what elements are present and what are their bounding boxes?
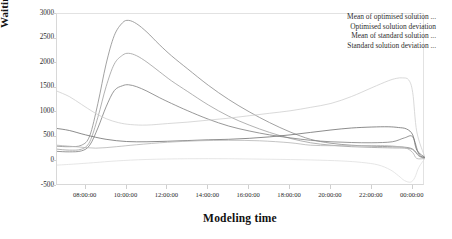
y-tick-label: 1000 xyxy=(22,107,54,115)
y-tick-label: 1500 xyxy=(22,82,54,90)
chart-container: Waiting time(s) 300025002000150010005000… xyxy=(0,0,452,239)
x-tick-label: 22:00:00 xyxy=(359,191,382,198)
y-tick-label: -500 xyxy=(22,181,54,189)
y-tick-mark xyxy=(52,160,56,161)
y-axis-title: Waiting time(s) xyxy=(0,0,10,46)
x-tick-label: 10:00:00 xyxy=(114,191,137,198)
x-tick-label: 12:00:00 xyxy=(155,191,178,198)
x-tick-mark xyxy=(371,185,372,189)
y-tick-mark xyxy=(52,38,56,39)
x-tick-mark xyxy=(166,185,167,189)
x-tick-mark xyxy=(126,185,127,189)
x-tick-mark xyxy=(289,185,290,189)
y-tick-label: 500 xyxy=(22,131,54,139)
legend-item: Optimised solution deviation xyxy=(347,22,436,32)
y-tick-label: 2000 xyxy=(22,58,54,66)
x-tick-mark xyxy=(248,185,249,189)
x-tick-mark xyxy=(330,185,331,189)
y-tick-mark xyxy=(52,62,56,63)
y-tick-mark xyxy=(52,13,56,14)
legend-item: Mean of optimised solution ... xyxy=(347,12,436,22)
x-axis-title: Modeling time xyxy=(56,212,424,224)
y-tick-label: 3000 xyxy=(22,9,54,17)
y-tick-mark xyxy=(52,136,56,137)
x-tick-mark xyxy=(412,185,413,189)
x-tick-label: 14:00:00 xyxy=(196,191,219,198)
legend-item: Standard solution deviation ... xyxy=(347,41,436,51)
x-tick-mark xyxy=(85,185,86,189)
x-tick-label: 00:00:00 xyxy=(400,191,423,198)
chart-legend: Mean of optimised solution ...Optimised … xyxy=(347,12,436,50)
x-tick-label: 08:00:00 xyxy=(73,191,96,198)
y-tick-mark xyxy=(52,111,56,112)
x-tick-label: 16:00:00 xyxy=(236,191,259,198)
y-tick-mark xyxy=(52,87,56,88)
y-tick-label: 2500 xyxy=(22,33,54,41)
x-axis-tick-labels: 08:00:0010:00:0012:00:0014:00:0016:00:00… xyxy=(0,191,452,205)
series-line xyxy=(57,158,425,182)
x-tick-label: 20:00:00 xyxy=(318,191,341,198)
legend-item: Mean of standard solution ... xyxy=(347,31,436,41)
y-tick-mark xyxy=(52,185,56,186)
y-tick-label: 0 xyxy=(22,156,54,164)
x-tick-label: 18:00:00 xyxy=(277,191,300,198)
x-tick-mark xyxy=(207,185,208,189)
series-line xyxy=(57,127,425,158)
